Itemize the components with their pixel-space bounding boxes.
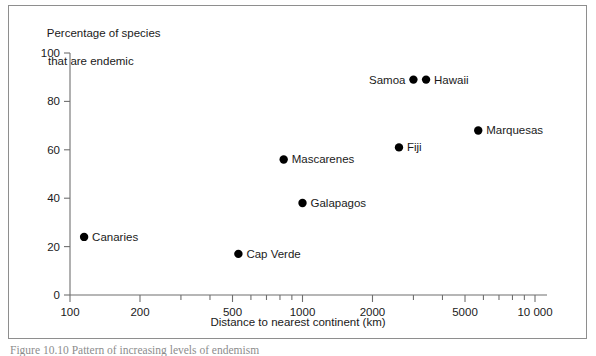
axis-group <box>70 53 547 295</box>
y-tick-label: 0 <box>54 289 60 301</box>
data-point-label: Canaries <box>92 231 138 243</box>
figure-caption: Figure 10.10 Pattern of increasing level… <box>10 344 259 356</box>
data-point-label: Fiji <box>407 141 422 153</box>
y-tick-label: 100 <box>41 47 60 59</box>
data-point[interactable] <box>474 126 482 134</box>
y-tick-label: 40 <box>47 192 60 204</box>
data-point[interactable] <box>409 75 417 83</box>
data-point-label: Marquesas <box>486 124 543 136</box>
data-point-label: Cap Verde <box>246 248 300 260</box>
data-point-label: Samoa <box>369 74 406 86</box>
y-tick-label: 80 <box>47 95 60 107</box>
scatter-plot: 02040608010010020050010002000500010 000 … <box>0 0 596 356</box>
tick-label-group: 02040608010010020050010002000500010 000 <box>41 47 553 318</box>
tick-group <box>64 53 535 302</box>
data-point[interactable] <box>234 250 242 258</box>
data-point[interactable] <box>80 233 88 241</box>
y-tick-label: 20 <box>47 241 60 253</box>
data-point[interactable] <box>395 143 403 151</box>
data-point-label: Hawaii <box>434 74 469 86</box>
figure-container: Percentage of species that are endemic 0… <box>0 0 596 356</box>
data-point-label: Mascarenes <box>292 153 355 165</box>
data-point[interactable] <box>298 199 306 207</box>
x-axis-title: Distance to nearest continent (km) <box>0 316 596 328</box>
data-point-group: CanariesCap VerdeMascarenesGalapagosFiji… <box>80 74 543 260</box>
data-point[interactable] <box>422 75 430 83</box>
data-point-label: Galapagos <box>311 197 367 209</box>
data-point[interactable] <box>279 155 287 163</box>
y-tick-label: 60 <box>47 144 60 156</box>
